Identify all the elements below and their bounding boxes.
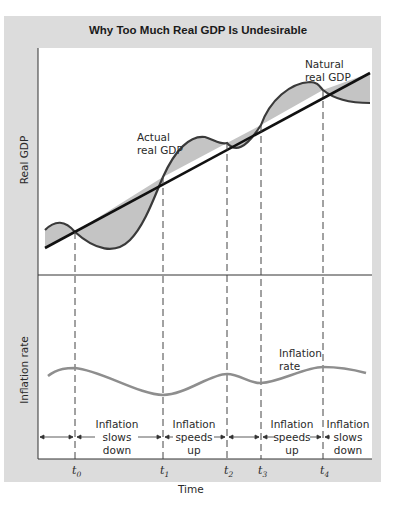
- plot-area: [38, 48, 372, 459]
- svg-text:up: up: [285, 444, 299, 456]
- svg-text:down: down: [103, 444, 131, 456]
- actual-gdp-label-2: real GDP: [137, 144, 183, 156]
- svg-text:Inflation: Inflation: [173, 418, 216, 430]
- natural-gdp-label-2: real GDP: [305, 71, 351, 83]
- svg-text:Inflation: Inflation: [271, 418, 314, 430]
- inflation-rate-label-2: rate: [279, 360, 300, 372]
- svg-text:up: up: [187, 444, 201, 456]
- svg-text:slows: slows: [334, 431, 363, 443]
- svg-text:down: down: [334, 444, 362, 456]
- svg-text:slows: slows: [103, 431, 132, 443]
- svg-text:speeds: speeds: [175, 431, 212, 443]
- svg-text:Inflation: Inflation: [96, 418, 139, 430]
- figure: Why Too Much Real GDP Is Undesirable: [0, 0, 396, 520]
- y-axis-label-real-gdp: Real GDP: [18, 136, 30, 185]
- x-axis-label: Time: [177, 483, 204, 495]
- natural-gdp-label-1: Natural: [305, 58, 344, 70]
- figure-title: Why Too Much Real GDP Is Undesirable: [89, 24, 307, 36]
- actual-gdp-label-1: Actual: [137, 131, 170, 143]
- svg-text:speeds: speeds: [273, 431, 310, 443]
- svg-text:Inflation: Inflation: [327, 418, 370, 430]
- y-axis-label-inflation: Inflation rate: [18, 336, 30, 404]
- inflation-rate-label-1: Inflation: [279, 347, 322, 359]
